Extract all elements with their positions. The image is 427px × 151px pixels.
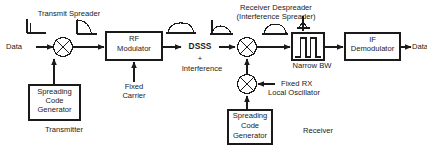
fixed-carrier-label-line2: Carrier [122,92,145,101]
narrow-bw-filter-box [292,33,324,60]
narrow-bw-label: Narrow BW [293,62,332,71]
local-oscillator-line2: Local Oscillator [268,89,320,98]
rx-downconvert-mixer-symbol [238,75,257,94]
rx-code-generator-line2: Code [229,122,271,131]
rx-code-generator-line3: Generator [229,132,271,141]
wide-rolloff-spectrum-icon [77,20,97,34]
wide-dome-spectrum-icon-tx [166,23,196,33]
dsss-block-diagram: Transmit Spreader Data RF Modulator Fixe… [0,0,427,151]
channel-plus-label: + [198,55,202,64]
transmitter-section-label: Transmitter [45,126,83,135]
rf-modulator-label-line1: RF [108,35,160,44]
if-demodulator-line2: Demodulator [346,45,399,54]
rx-data-output-label: Data [412,43,427,52]
dsss-signal-label: DSSS [189,42,212,51]
wide-dome-spectrum-icon-rx [262,24,288,34]
dome-with-interference-spike-spectrum-icon [210,20,233,34]
interference-label: Interference [182,65,223,74]
bandpass-pulse-shape-icon [295,38,321,57]
despreading-mixer-symbol [238,38,257,57]
narrow-spike-spectrum-icon [27,19,46,33]
spreading-mixer-symbol [54,38,73,57]
rf-modulator-label-line2: Modulator [108,45,160,54]
transmit-spreader-label: Transmit Spreader [38,10,101,19]
rx-code-generator-line1: Spreading [229,112,271,121]
tx-data-input-label: Data [6,43,22,52]
tx-code-generator-line3: Generator [30,106,79,115]
receiver-section-label: Receiver [303,127,333,136]
receiver-despreader-line2: (Interference Spreader) [237,13,316,22]
